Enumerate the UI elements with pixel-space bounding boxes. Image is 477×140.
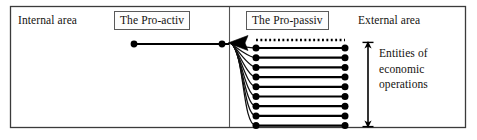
entity-dot-left [253,93,260,100]
pro-activ-dot-left [131,41,138,48]
entity-dot-right [342,93,349,100]
entity-dot-right [342,74,349,81]
entity-dot-left [253,103,260,110]
label-internal-area: Internal area [18,13,77,27]
entity-dot-right [342,83,349,90]
label-pro-activ: The Pro-activ [114,11,190,30]
entity-dot-left [253,122,260,129]
entity-dot-right [342,45,349,52]
label-pro-passiv: The Pro-passiv [246,11,329,30]
entity-dot-right [342,64,349,71]
entity-dot-right [342,103,349,110]
entities-line-1: Entities of [379,46,428,62]
entity-dot-left [253,83,260,90]
entity-dot-right [342,54,349,61]
label-external-area: External area [358,13,420,27]
entity-dot-right [342,122,349,129]
entity-dot-left [253,45,260,52]
entity-dot-left [253,74,260,81]
pro-activ-dot-right [219,41,226,48]
diagram-canvas: Internal area The Pro-activ The Pro-pass… [0,0,477,140]
entity-line-group [253,45,349,130]
entity-dot-left [253,64,260,71]
entity-dot-left [253,54,260,61]
entity-dot-right [342,112,349,119]
entity-dot-left [253,112,260,119]
entities-line-3: operations [379,77,428,93]
entities-line-2: economic [379,62,428,78]
label-entities-of-economic-operations: Entities of economic operations [379,46,428,93]
